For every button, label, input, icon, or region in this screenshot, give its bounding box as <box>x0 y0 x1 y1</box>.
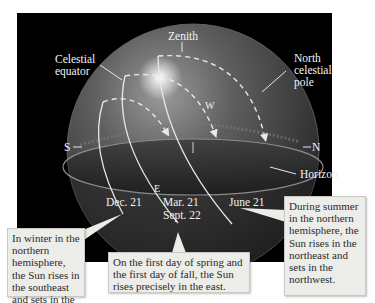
east-label: E <box>154 183 160 195</box>
winter-callout: In winter in the northern hemisphere, th… <box>7 228 85 297</box>
mar21-label: Mar. 21 <box>163 196 199 208</box>
north-celestial-pole-label-line1: North <box>294 52 321 64</box>
celestial-equator-label-line2: equator <box>55 65 89 77</box>
north-celestial-pole-label-line3: pole <box>294 76 314 88</box>
observer-icon <box>192 142 194 153</box>
june21-label: June 21 <box>229 196 264 208</box>
zenith-label: Zenith <box>168 30 198 42</box>
celestial-equator-label-line1: Celestial <box>55 53 95 65</box>
summer-callout: During summer in the northern hemisphere… <box>284 196 366 296</box>
north-celestial-pole-label-line2: celestial <box>294 64 332 76</box>
equinox-callout: On the first day of spring and the first… <box>108 252 250 293</box>
sept22-label: Sept. 22 <box>163 209 201 221</box>
south-label: S <box>64 141 70 153</box>
dec21-label: Dec. 21 <box>106 196 142 208</box>
north-label: N <box>312 141 320 153</box>
horizon-label: Horizon <box>300 168 338 180</box>
west-label: W <box>205 100 214 112</box>
